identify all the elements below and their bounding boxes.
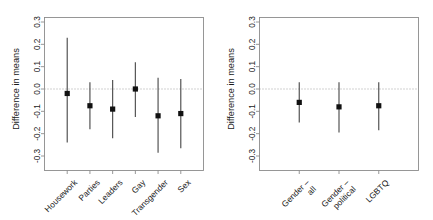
point-estimate-marker (87, 103, 92, 108)
x-category-label-line: Gay (129, 177, 148, 196)
y-tick-label: 0.3 (248, 16, 257, 28)
point-estimate-marker (133, 86, 138, 91)
y-tick-label: -0.1 (33, 104, 42, 119)
point-estimate-marker (155, 113, 160, 118)
point-estimate-marker (376, 103, 381, 108)
y-tick-label: 0.0 (248, 83, 257, 95)
x-category-label: Housework (42, 177, 79, 214)
x-category-label: Gender –all (279, 177, 318, 216)
y-tick-label: 0.1 (33, 61, 42, 73)
x-category-label: Gender –political (319, 177, 358, 216)
y-tick-label: -0.3 (248, 148, 257, 163)
x-category-label: Leaders (96, 177, 124, 205)
y-tick-label: -0.3 (33, 148, 42, 163)
point-estimate-marker (336, 104, 341, 109)
point-estimate-marker (178, 111, 183, 116)
y-tick-label: -0.2 (33, 126, 42, 141)
y-tick-label: 0.1 (248, 61, 257, 73)
two-panel-coefficient-figure: 0.30.20.10.0-0.1-0.2-0.3Difference in me… (0, 0, 433, 220)
x-category-label-line: LGBTQ (364, 177, 391, 204)
x-category-label-line: Sex (175, 177, 193, 195)
x-category-label-line: Leaders (96, 177, 124, 205)
y-tick-label: 0.0 (33, 83, 42, 95)
x-category-label: Gay (129, 177, 148, 196)
x-category-label: Sex (175, 177, 193, 195)
panel-left: 0.30.20.10.0-0.1-0.2-0.3Difference in me… (11, 16, 203, 218)
y-tick-label: 0.3 (33, 16, 42, 28)
point-estimate-marker (297, 100, 302, 105)
point-estimate-marker (65, 91, 70, 96)
y-axis-title: Difference in means (11, 48, 21, 130)
y-tick-label: 0.2 (248, 38, 257, 50)
x-category-label-line: Housework (42, 177, 79, 214)
point-estimate-marker (110, 107, 115, 112)
y-tick-label: -0.1 (248, 104, 257, 119)
y-axis-title: Difference in means (226, 48, 236, 130)
y-tick-label: 0.2 (33, 38, 42, 50)
y-tick-label: -0.2 (248, 126, 257, 141)
forest-plot-svg: 0.30.20.10.0-0.1-0.2-0.3Difference in me… (0, 0, 433, 220)
panel-right: 0.30.20.10.0-0.1-0.2-0.3Difference in me… (226, 16, 418, 216)
x-category-label: LGBTQ (364, 177, 391, 204)
